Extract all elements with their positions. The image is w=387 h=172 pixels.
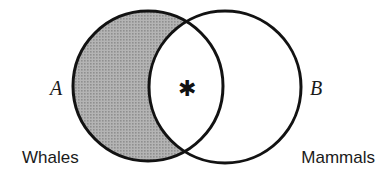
set-b-symbol-label: B xyxy=(310,77,322,99)
set-a-name-label: Whales xyxy=(22,148,79,167)
set-a-symbol-label: A xyxy=(48,77,63,99)
venn-diagram-canvas: ✱ A B Whales Mammals xyxy=(0,0,387,172)
venn-diagram-figure: ✱ A B Whales Mammals xyxy=(0,0,387,172)
set-b-name-label: Mammals xyxy=(301,148,375,167)
intersection-asterisk-marker: ✱ xyxy=(178,76,196,101)
